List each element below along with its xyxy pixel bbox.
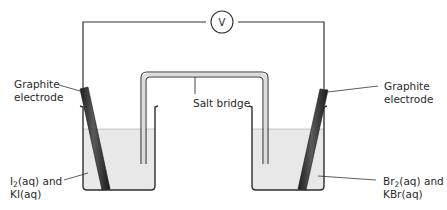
right-solution-line1: Br2(aq) and xyxy=(383,175,444,188)
salt-bridge xyxy=(141,72,268,164)
right-solution-leader xyxy=(318,176,376,180)
right-solution-label: Br2(aq) and KBr(aq) xyxy=(383,175,444,201)
left-solution-label: I2(aq) and KI(aq) xyxy=(10,175,62,201)
voltmeter-icon: V xyxy=(211,11,233,33)
right-electrode-leader xyxy=(328,86,378,92)
salt-bridge-label: Salt bridge xyxy=(193,97,250,110)
svg-text:V: V xyxy=(219,17,226,28)
left-solution-line1: I2(aq) and xyxy=(10,175,62,188)
left-electrode-label: Graphite electrode xyxy=(14,78,63,104)
circuit-wire xyxy=(83,22,324,89)
right-electrode-label: Graphite electrode xyxy=(384,80,433,106)
